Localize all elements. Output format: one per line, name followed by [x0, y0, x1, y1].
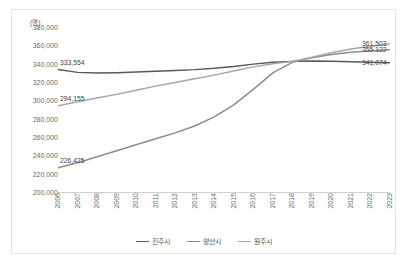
legend-item[interactable]: 양산시	[187, 236, 221, 246]
x-axis-tick: 2012	[171, 193, 178, 209]
data-label-start: 226,425	[60, 157, 85, 164]
legend-item-label: 원주시	[254, 236, 272, 246]
x-axis-tick: 2018	[288, 193, 295, 209]
x-axis-tick: 2011	[152, 193, 159, 208]
legend-item-label: 진주시	[152, 236, 170, 246]
y-axis-tick: 260,000	[33, 134, 58, 141]
legend-item-label: 양산시	[203, 236, 221, 246]
x-axis-tick: 2006	[54, 193, 61, 209]
y-axis-tick: 320,000	[33, 79, 58, 86]
legend-line-icon	[238, 241, 251, 242]
x-axis-tick: 2016	[249, 193, 256, 209]
x-axis-tick: 2022	[366, 193, 373, 209]
x-axis-tick: 2010	[132, 193, 139, 209]
x-axis-tick: 2019	[308, 193, 315, 209]
x-axis-tick: 2015	[230, 193, 237, 209]
data-label-end: 355,122	[362, 46, 387, 53]
y-axis-tick: 360,000	[33, 42, 58, 49]
x-axis-tick: 2021	[347, 193, 354, 209]
x-axis-tick: 2014	[210, 193, 217, 209]
x-axis-tick: 2009	[113, 193, 120, 209]
plot-area	[58, 27, 390, 192]
x-axis-tick: 2007	[74, 193, 81, 209]
data-label-end: 341,074	[362, 59, 387, 66]
y-axis-tick: 380,000	[33, 24, 58, 31]
y-axis-tick: 280,000	[33, 115, 58, 122]
y-axis-tick: 220,000	[33, 170, 58, 177]
y-axis-ticks: 380,000360,000340,000320,000300,000280,0…	[12, 0, 58, 263]
x-axis-tick: 2017	[269, 193, 276, 209]
x-axis-tick: 2020	[327, 193, 334, 209]
legend-line-icon	[187, 241, 200, 242]
y-axis-tick: 340,000	[33, 60, 58, 67]
legend-item[interactable]: 진주시	[136, 236, 170, 246]
data-label-start: 294,155	[60, 95, 85, 102]
legend-line-icon	[136, 241, 149, 242]
x-axis-tick: 2023	[386, 193, 393, 209]
x-axis-tick: 2008	[93, 193, 100, 209]
x-axis-ticks: 2006200720082009201020112012201320142015…	[58, 193, 390, 233]
series-line	[58, 61, 390, 73]
legend-item[interactable]: 원주시	[238, 236, 272, 246]
chart-legend: 진주시양산시원주시	[0, 236, 407, 246]
y-axis-tick: 300,000	[33, 97, 58, 104]
x-axis-tick: 2013	[191, 193, 198, 209]
data-label-start: 333,554	[60, 59, 85, 66]
y-axis-tick: 240,000	[33, 152, 58, 159]
